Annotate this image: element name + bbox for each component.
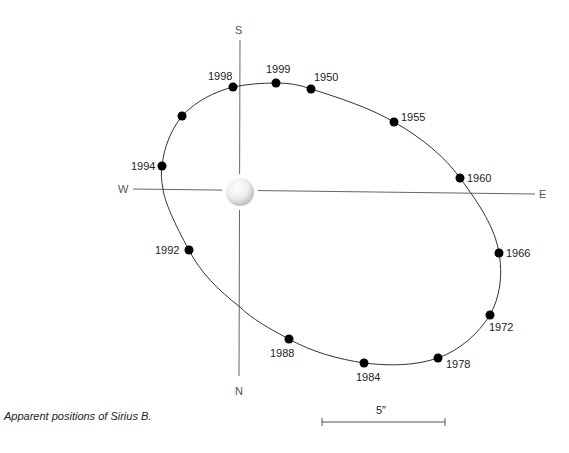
dot-1978	[434, 354, 443, 363]
figure-caption: Apparent positions of Sirius B.	[4, 410, 151, 422]
dot-1988	[285, 335, 294, 344]
label-1966: 1966	[506, 247, 530, 259]
scale-bar: 5″	[322, 404, 445, 426]
label-1960: 1960	[467, 172, 491, 184]
dot-1984	[360, 359, 369, 368]
dot-1972	[486, 311, 495, 320]
scale-bar-label: 5″	[376, 404, 386, 416]
label-1998: 1998	[208, 70, 232, 82]
west-label: W	[118, 183, 129, 195]
label-1972: 1972	[489, 321, 513, 333]
dot-1960	[456, 174, 465, 183]
label-1955: 1955	[401, 111, 425, 123]
dot-1994	[158, 162, 167, 171]
orbit-ellipse	[161, 83, 500, 365]
sirius-orbit-diagram: S N W E 1950 1955 1960 1966 1972 1978 19…	[0, 0, 569, 453]
dot-1998	[229, 83, 238, 92]
label-1992: 1992	[155, 244, 179, 256]
ew-axis-line	[133, 189, 535, 194]
east-label: E	[539, 188, 546, 200]
label-1994: 1994	[131, 160, 155, 172]
position-dots	[158, 79, 504, 368]
label-1978: 1978	[446, 358, 470, 370]
label-1984: 1984	[356, 371, 380, 383]
dot-unlabeled	[178, 112, 187, 121]
north-label: N	[235, 385, 243, 397]
dot-1992	[185, 246, 194, 255]
south-label: S	[235, 24, 242, 36]
label-1950: 1950	[314, 71, 338, 83]
label-1988: 1988	[270, 347, 294, 359]
sirius-a-star-icon	[226, 178, 254, 206]
label-1999: 1999	[266, 63, 290, 75]
dot-1955	[390, 118, 399, 127]
dot-1999	[272, 79, 281, 88]
dot-1950	[307, 85, 316, 94]
dot-1966	[495, 249, 504, 258]
